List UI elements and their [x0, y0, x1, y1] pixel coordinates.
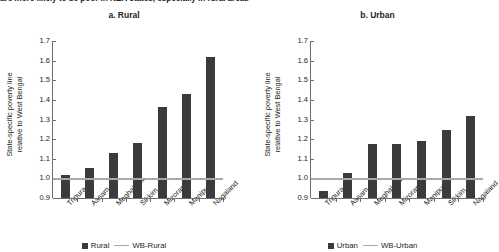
y-axis-tick-label: 1.3	[28, 115, 53, 124]
y-axis-label-urban: State-specific poverty line relative to …	[263, 50, 282, 180]
y-axis-label-rural: State-specific poverty line relative to …	[5, 50, 24, 180]
plot-area-urban: 0.91.01.11.21.31.41.51.61.7TripuraAssamM…	[310, 41, 483, 198]
bar-slot	[77, 41, 101, 198]
y-axis-tick-label: 0.9	[286, 193, 311, 202]
x-axis-line	[53, 198, 223, 199]
bar-slot	[150, 41, 174, 198]
bar-meghalaya[interactable]	[109, 153, 118, 198]
legend-item-rural-bar: Rural	[82, 241, 110, 250]
bar-slot	[53, 41, 77, 198]
bar-slot	[434, 41, 459, 198]
bar-mizoram[interactable]	[158, 107, 167, 198]
bar-nagaland[interactable]	[206, 57, 215, 198]
bar-manipur[interactable]	[417, 141, 426, 198]
bar-slot	[174, 41, 198, 198]
panel-rural: a. Rural State-specific poverty line rel…	[0, 10, 248, 252]
y-axis-label-line1: State-specific poverty line	[263, 72, 272, 156]
panel-urban: b. Urban State-specific poverty line rel…	[248, 10, 497, 252]
legend-urban: Urban WB-Urban	[248, 241, 497, 250]
legend-label-line: WB-Urban	[381, 241, 417, 250]
bar-meghalaya[interactable]	[368, 144, 377, 198]
legend-swatch-icon	[328, 243, 334, 249]
x-axis-line	[311, 198, 483, 199]
bar-slot	[385, 41, 410, 198]
legend-line-icon	[114, 245, 129, 247]
y-axis-tick-label: 1.0	[28, 173, 53, 182]
bar-slot	[409, 41, 434, 198]
plot-area-rural: 0.91.01.11.21.31.41.51.61.7TripuraAssamM…	[52, 41, 223, 198]
y-axis-tick-label: 1.6	[28, 56, 53, 65]
bar-nagaland[interactable]	[466, 116, 475, 198]
y-axis-tick-label: 0.9	[28, 193, 53, 202]
y-axis-tick-label: 1.0	[286, 173, 311, 182]
bar-assam[interactable]	[85, 168, 94, 198]
y-axis-tick-label: 1.1	[286, 154, 311, 163]
y-axis-tick-label: 1.5	[286, 75, 311, 84]
bar-slot	[126, 41, 150, 198]
legend-label-line: WB-Rural	[132, 241, 166, 250]
legend-label-bar: Urban	[337, 241, 358, 250]
bar-mizoram[interactable]	[392, 144, 401, 198]
legend-rural: Rural WB-Rural	[0, 241, 248, 250]
bar-slot	[102, 41, 126, 198]
legend-item-wb-rural-line: WB-Rural	[114, 241, 166, 250]
bar-manipur[interactable]	[182, 94, 191, 198]
y-axis-tick-label: 1.1	[28, 154, 53, 163]
legend-swatch-icon	[82, 243, 88, 249]
y-axis-tick-label: 1.2	[28, 134, 53, 143]
legend-item-wb-urban-line: WB-Urban	[363, 241, 417, 250]
y-axis-label-line2: relative to West Bengal	[272, 77, 281, 153]
bar-slot	[199, 41, 223, 198]
bar-sikkim[interactable]	[442, 130, 451, 198]
bar-sikkim[interactable]	[133, 143, 142, 198]
figure-headline: are more likely to be poor in NER states…	[0, 0, 497, 3]
panel-title-rural: a. Rural	[0, 10, 248, 20]
reference-line-wb-urban	[311, 178, 483, 180]
legend-label-bar: Rural	[91, 241, 110, 250]
legend-item-urban-bar: Urban	[328, 241, 358, 250]
y-axis-tick-label: 1.7	[286, 36, 311, 45]
bar-slot	[311, 41, 336, 198]
y-axis-tick-label: 1.4	[286, 95, 311, 104]
legend-line-icon	[363, 245, 378, 247]
y-axis-label-line2: relative to West Bengal	[14, 77, 23, 153]
y-axis-label-line1: State-specific poverty line	[5, 72, 14, 156]
bar-slot	[336, 41, 361, 198]
panel-title-urban: b. Urban	[248, 10, 497, 20]
reference-line-wb-rural	[53, 178, 223, 180]
y-axis-tick-label: 1.4	[28, 95, 53, 104]
y-axis-tick-label: 1.3	[286, 115, 311, 124]
y-axis-tick-label: 1.6	[286, 56, 311, 65]
bar-slot	[458, 41, 483, 198]
bar-assam[interactable]	[343, 173, 352, 198]
y-axis-tick-label: 1.7	[28, 36, 53, 45]
y-axis-tick-label: 1.5	[28, 75, 53, 84]
bar-slot	[360, 41, 385, 198]
y-axis-tick-label: 1.2	[286, 134, 311, 143]
